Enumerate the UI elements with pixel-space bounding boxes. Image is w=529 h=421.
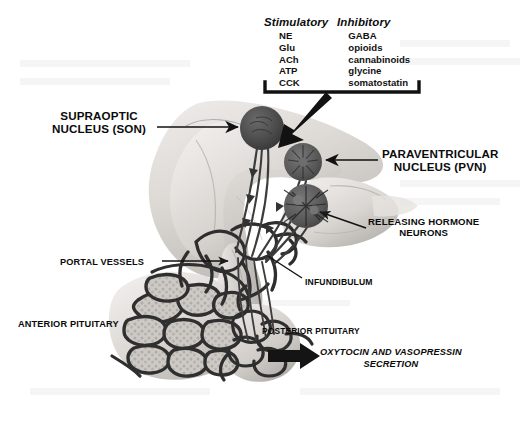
inhibitory-item: glycine (342, 66, 422, 77)
inhibitory-item: opioids (342, 43, 422, 54)
stimulatory-item: ATP (262, 66, 342, 77)
label-anterior-pituitary: ANTERIOR PITUITARY (18, 318, 119, 331)
neurotransmitter-row: Glu opioids (262, 43, 422, 54)
diagram-figure: Stimulatory Inhibitory NE GABA Glu opioi… (0, 0, 529, 421)
neurotransmitter-row: NE GABA (262, 31, 422, 42)
inhibitory-item: somatostatin (342, 78, 422, 89)
neurotransmitter-table: Stimulatory Inhibitory NE GABA Glu opioi… (262, 16, 422, 90)
neurotransmitter-row: CCK somatostatin (262, 78, 422, 89)
stimulatory-item: CCK (262, 78, 342, 89)
inhibitory-column-header: Inhibitory (337, 16, 422, 28)
label-releasing-hormone-neurons: RELEASING HORMONE NEURONS (368, 216, 479, 238)
stimulatory-item: Glu (262, 43, 342, 54)
stimulatory-column-header: Stimulatory (262, 16, 337, 28)
label-infundibulum: INFUNDIBULUM (305, 276, 373, 289)
paraventricular-nucleus-cluster (284, 143, 322, 181)
inhibitory-item: cannabinoids (342, 55, 422, 66)
neurotransmitter-row: ATP glycine (262, 66, 422, 77)
stimulatory-item: ACh (262, 55, 342, 66)
supraoptic-nucleus-cluster (240, 106, 284, 150)
neurotransmitter-row: ACh cannabinoids (262, 55, 422, 66)
label-paraventricular-nucleus: PARAVENTRICULAR NUCLEUS (PVN) (382, 148, 498, 173)
neurotransmitter-table-header: Stimulatory Inhibitory (262, 16, 422, 28)
label-secretion: OXYTOCIN AND VASOPRESSIN SECRETION (320, 347, 462, 370)
label-supraoptic-nucleus: SUPRAOPTIC NUCLEUS (SON) (52, 110, 146, 135)
label-portal-vessels: PORTAL VESSELS (60, 256, 144, 269)
label-posterior-pituitary: POSTERIOR PITUITARY (262, 325, 360, 338)
releasing-hormone-neurons-cluster (284, 184, 328, 228)
inhibitory-item: GABA (342, 31, 422, 42)
stimulatory-item: NE (262, 31, 342, 42)
